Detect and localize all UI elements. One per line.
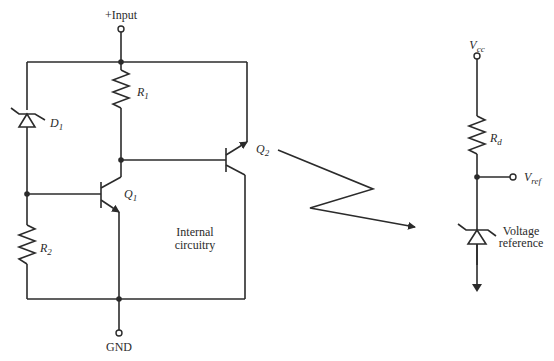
resistor-rd (469, 116, 485, 154)
transistor-q1 (101, 160, 121, 299)
voltage-reference-label-line2: reference (499, 236, 544, 250)
vref-terminal (510, 174, 516, 180)
ground-terminal (116, 330, 122, 336)
d1-label: D1 (49, 116, 63, 132)
zener-diode-d1 (11, 108, 45, 127)
input-terminal (118, 26, 124, 32)
vcc-terminal (474, 53, 480, 59)
zigzag-arrow (278, 150, 415, 227)
vref-label: Vref (524, 170, 543, 186)
left-circuit: +Input R1 Q2 Q1 (11, 8, 270, 354)
rd-label: Rd (489, 131, 502, 147)
r2-label: R2 (39, 241, 52, 257)
internal-circuitry-label-line1: Internal (176, 225, 214, 239)
vcc-label: Vcc (469, 38, 484, 54)
ground-label: GND (106, 340, 132, 354)
transistor-q2 (226, 62, 247, 299)
q2-label: Q2 (256, 142, 270, 158)
r1-label: R1 (136, 85, 149, 101)
input-label: +Input (105, 8, 138, 22)
internal-circuitry-label-line2: circuitry (175, 238, 216, 252)
circuit-diagram: +Input R1 Q2 Q1 (0, 0, 554, 361)
right-circuit: Vcc Rd Vref Voltage reference (458, 38, 543, 292)
resistor-r1 (113, 70, 129, 108)
resistor-r2 (19, 225, 35, 264)
q1-label: Q1 (124, 187, 137, 203)
